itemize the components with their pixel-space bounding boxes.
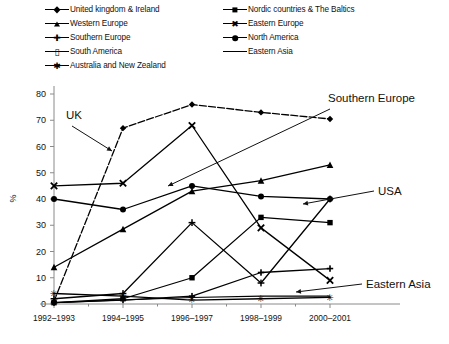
chart-legend: United kingdom & Ireland Western Europe …	[44, 3, 404, 75]
legend-item-north-america: North America	[222, 31, 412, 45]
legend-label: Australia and New Zealand	[70, 61, 166, 71]
legend-marker-circle-icon	[222, 31, 248, 45]
legend-item-western-europe: Western Europe	[44, 17, 224, 31]
legend-label: North America	[248, 33, 299, 43]
data-point-bar	[260, 269, 262, 275]
data-point-circle	[189, 183, 195, 189]
data-point-cross	[260, 280, 262, 287]
data-point-circle	[258, 193, 264, 199]
legend-marker-triangle-icon	[44, 17, 70, 31]
data-point-square	[327, 220, 332, 225]
annotation-usa: USA	[378, 185, 402, 197]
y-axis-tick-label: 20	[36, 247, 46, 257]
data-point-diamond	[258, 109, 264, 115]
y-axis-tick-label: 10	[36, 273, 46, 283]
data-point-triangle	[51, 264, 58, 270]
y-axis-tick-label: 70	[36, 115, 46, 125]
annotation-uk: UK	[66, 109, 82, 121]
series-line-nordic-countries-the-baltics	[54, 217, 330, 302]
data-point-diamond	[189, 101, 195, 107]
legend-column-left: United kingdom & Ireland Western Europe …	[44, 3, 224, 73]
annotation-eastern-asia: Eastern Asia	[366, 278, 431, 290]
x-axis-tick-label: 1996–1997	[171, 313, 213, 323]
y-axis-tick-label: 40	[36, 194, 46, 204]
legend-label: United kingdom & Ireland	[70, 5, 160, 15]
data-point-star: ✳	[188, 294, 196, 305]
chart-figure: United kingdom & Ireland Western Europe …	[0, 0, 449, 344]
legend-marker-ex-icon: ✖	[222, 17, 248, 31]
legend-item-southern-europe: ✚ Southern Europe	[44, 31, 224, 45]
x-axis-tick-label: 1992–1993	[33, 313, 75, 323]
annotation-southern-europe: Southern Europe	[328, 92, 415, 104]
data-point-star: ✳	[119, 290, 127, 301]
chart-plot-area: 01020304050607080% 1992–19931994–1995199…	[0, 76, 449, 344]
x-axis-tick-label: 2000–2001	[309, 313, 351, 323]
legend-marker-diamond-icon	[44, 3, 70, 17]
x-axis-tick-label: 1998–1999	[240, 313, 282, 323]
legend-item-eastern-europe: ✖ Eastern Europe	[222, 17, 412, 31]
data-point-triangle	[120, 226, 127, 232]
data-point-star: ✳	[326, 292, 334, 303]
legend-label: Southern Europe	[70, 33, 130, 43]
legend-label: South America	[70, 47, 122, 57]
legend-label: Eastern Europe	[248, 19, 304, 29]
series-line-united-kingdom-ireland	[54, 105, 330, 302]
data-point-triangle	[327, 161, 334, 167]
y-axis-tick-label: 80	[36, 89, 46, 99]
y-axis: 01020304050607080%	[8, 86, 54, 309]
data-point-circle	[51, 196, 57, 202]
legend-label: Eastern Asia	[248, 47, 293, 57]
data-point-star: ✳	[50, 288, 58, 299]
y-axis-tick-label: 50	[36, 168, 46, 178]
data-point-square	[189, 275, 194, 280]
legend-marker-star-icon: ✱	[44, 59, 70, 73]
x-axis-tick-label: 1994–1995	[102, 313, 144, 323]
legend-marker-square-icon	[222, 3, 248, 17]
series-line-southern-europe	[54, 199, 330, 299]
data-point-diamond	[120, 125, 126, 131]
series-line-eastern-europe	[54, 126, 330, 281]
data-point-circle	[120, 207, 126, 213]
data-point-diamond	[327, 116, 333, 122]
legend-marker-cross-icon: ✚	[44, 31, 70, 45]
legend-column-right: Nordic countries & The Baltics ✖ Eastern…	[222, 3, 412, 59]
legend-label: Nordic countries & The Baltics	[248, 5, 355, 15]
y-axis-tick-label: 30	[36, 220, 46, 230]
legend-item-eastern-asia: Eastern Asia	[222, 45, 412, 59]
data-point-square	[258, 215, 263, 220]
y-axis-title: %	[8, 194, 18, 202]
legend-label: Western Europe	[70, 19, 128, 29]
legend-item-australia-new-zealand: ✱ Australia and New Zealand	[44, 59, 224, 73]
annotation-layer: UKSouthern EuropeUSAEastern Asia	[66, 92, 431, 294]
legend-item-south-america: ▯ South America	[44, 45, 224, 59]
legend-item-united-kingdom-ireland: United kingdom & Ireland	[44, 3, 224, 17]
legend-marker-plain-line-icon	[222, 45, 248, 59]
data-point-bar	[329, 265, 331, 271]
data-point-star: ✳	[257, 293, 265, 304]
legend-marker-bar-icon: ▯	[44, 45, 70, 59]
data-point-cross	[191, 219, 193, 226]
series-layer: ✳✳✳✳✳	[50, 101, 334, 306]
y-axis-tick-label: 60	[36, 142, 46, 152]
chart-svg: 01020304050607080% 1992–19931994–1995199…	[0, 76, 449, 344]
series-line-western-europe	[54, 165, 330, 267]
legend-item-nordic-countries-baltics: Nordic countries & The Baltics	[222, 3, 412, 17]
x-axis: 1992–19931994–19951996–19971998–19992000…	[33, 304, 400, 323]
